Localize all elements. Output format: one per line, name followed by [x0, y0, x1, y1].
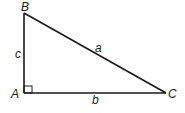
vertex-label-b: B	[21, 0, 29, 14]
triangle-svg: B A C c a b	[0, 0, 185, 113]
vertex-label-c: C	[168, 87, 177, 101]
vertex-label-a: A	[10, 87, 19, 101]
side-label-b: b	[92, 93, 99, 107]
side-label-c: c	[15, 47, 21, 61]
triangle-diagram: B A C c a b	[0, 0, 185, 113]
side-label-a: a	[95, 41, 102, 55]
right-angle-marker	[24, 86, 32, 93]
